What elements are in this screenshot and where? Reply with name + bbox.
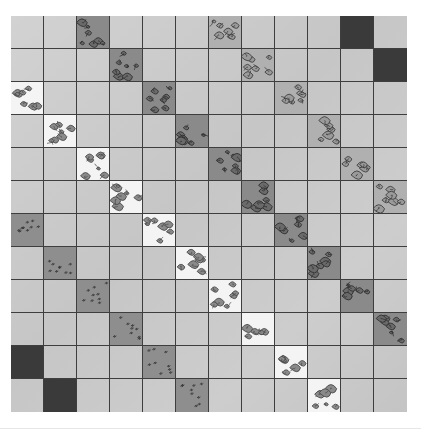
grid-cell	[11, 115, 44, 148]
grid-cell	[44, 379, 77, 412]
grid-cell	[308, 181, 341, 214]
grid-cell	[176, 115, 209, 148]
grid-cell	[11, 181, 44, 214]
grid-cell	[209, 49, 242, 82]
grid-cell	[242, 247, 275, 280]
grid-cell	[110, 346, 143, 379]
grid-cell	[44, 181, 77, 214]
grid-cell	[308, 346, 341, 379]
grid-cell	[275, 181, 308, 214]
white-floral-tile	[242, 313, 274, 345]
grid-cell	[176, 379, 209, 412]
white-floral-tile	[44, 115, 76, 147]
grid-cell	[275, 16, 308, 49]
dark-floral-tile	[275, 214, 307, 246]
grid-cell	[143, 115, 176, 148]
grid-cell	[374, 214, 407, 247]
dash-pattern-tile	[176, 379, 208, 412]
grid-cell	[374, 181, 407, 214]
grid-cell	[44, 214, 77, 247]
grid-cell	[11, 214, 44, 247]
grid-cell	[242, 49, 275, 82]
grid-cell	[110, 280, 143, 313]
grid-cell	[176, 181, 209, 214]
dark-floral-tile	[374, 313, 407, 345]
dark-floral-tile	[176, 115, 208, 147]
grid-cell	[275, 115, 308, 148]
grid-cell	[209, 82, 242, 115]
grid-cell	[77, 214, 110, 247]
grid-cell	[44, 247, 77, 280]
white-floral-tile	[143, 214, 175, 246]
grid-cell	[110, 214, 143, 247]
grid-cell	[44, 313, 77, 346]
grid-cell	[77, 379, 110, 412]
grid-cell	[374, 115, 407, 148]
grid-cell	[275, 49, 308, 82]
grid-cell	[275, 214, 308, 247]
grid-cell	[308, 16, 341, 49]
grid-cell	[341, 247, 374, 280]
grid-cell	[143, 214, 176, 247]
grid-cell	[209, 346, 242, 379]
grid-cell	[77, 148, 110, 181]
grid-cell	[44, 16, 77, 49]
grid-cell	[143, 313, 176, 346]
medium-floral-tile	[374, 181, 407, 213]
grid-cell	[209, 313, 242, 346]
grid-cell	[176, 148, 209, 181]
medium-floral-tile	[209, 16, 241, 48]
dark-floral-tile	[143, 82, 175, 114]
grid-cell	[308, 280, 341, 313]
grid-cell	[110, 379, 143, 412]
grid-cell	[341, 115, 374, 148]
grid-cell	[77, 16, 110, 49]
white-floral-tile	[176, 247, 208, 279]
grid-cell	[242, 82, 275, 115]
black-tile	[341, 16, 373, 48]
grid-cell	[44, 49, 77, 82]
grid-cell	[242, 148, 275, 181]
grid-cell	[143, 379, 176, 412]
grid-cell	[176, 49, 209, 82]
grid-cell	[209, 115, 242, 148]
grid-cell	[11, 16, 44, 49]
black-tile	[44, 379, 76, 412]
grid-cell	[176, 214, 209, 247]
dark-floral-tile	[341, 280, 373, 312]
grid-cell	[11, 49, 44, 82]
grid-cell	[242, 214, 275, 247]
grid-cell	[143, 148, 176, 181]
grid-cell	[110, 16, 143, 49]
white-floral-tile	[308, 379, 340, 412]
grid-cell	[11, 82, 44, 115]
grid-cell	[44, 280, 77, 313]
black-tile	[374, 49, 407, 81]
grid-cell	[143, 16, 176, 49]
white-floral-tile	[275, 346, 307, 378]
dark-floral-tile	[110, 49, 142, 81]
white-floral-tile	[77, 148, 109, 180]
grid-cell	[341, 49, 374, 82]
grid-cell	[275, 247, 308, 280]
grid-cell	[110, 148, 143, 181]
grid-cell	[209, 181, 242, 214]
grid-cell	[77, 313, 110, 346]
grid-cell	[176, 247, 209, 280]
grid-cell	[77, 115, 110, 148]
grid-cell	[143, 346, 176, 379]
grid-cell	[77, 280, 110, 313]
grid-cell	[143, 181, 176, 214]
grid-cell	[374, 148, 407, 181]
grid-cell	[44, 346, 77, 379]
bottom-divider	[0, 428, 421, 429]
grid-cell	[110, 82, 143, 115]
grid-cell	[44, 115, 77, 148]
grid-cell	[341, 214, 374, 247]
grid-cell	[11, 313, 44, 346]
grid-cell	[341, 313, 374, 346]
grid-cell	[341, 181, 374, 214]
medium-floral-tile	[308, 115, 340, 147]
dash-pattern-tile	[143, 346, 175, 378]
black-tile	[11, 346, 43, 378]
